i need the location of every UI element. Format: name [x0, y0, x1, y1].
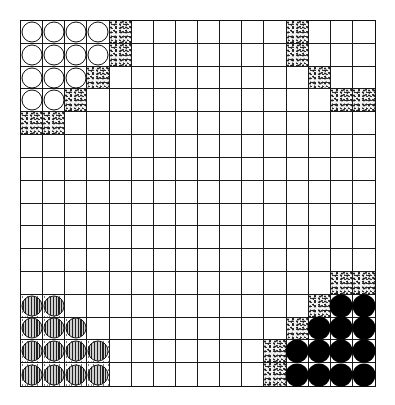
- board-cell[interactable]: [242, 249, 264, 272]
- board-cell[interactable]: [65, 135, 87, 158]
- board-cell[interactable]: [353, 249, 375, 272]
- board-cell[interactable]: [264, 249, 286, 272]
- board-cell[interactable]: [154, 226, 176, 249]
- board-cell[interactable]: [154, 181, 176, 204]
- board-cell[interactable]: [43, 181, 65, 204]
- board-cell[interactable]: [287, 226, 309, 249]
- board-cell[interactable]: [309, 112, 331, 135]
- striped-piece-icon[interactable]: [65, 364, 86, 385]
- white-piece-icon[interactable]: [43, 44, 64, 65]
- board-cell[interactable]: [309, 272, 331, 295]
- board-cell[interactable]: [43, 112, 65, 135]
- board-cell[interactable]: [331, 21, 353, 44]
- board-cell[interactable]: [176, 112, 198, 135]
- board-cell[interactable]: [110, 249, 132, 272]
- board-cell[interactable]: [309, 318, 331, 341]
- board-cell[interactable]: [132, 363, 154, 386]
- board-cell[interactable]: [220, 204, 242, 227]
- board-cell[interactable]: [220, 363, 242, 386]
- board-cell[interactable]: [110, 272, 132, 295]
- board-cell[interactable]: [353, 112, 375, 135]
- board-cell[interactable]: [287, 89, 309, 112]
- board-cell[interactable]: [176, 181, 198, 204]
- board-cell[interactable]: [220, 89, 242, 112]
- board-cell[interactable]: [198, 181, 220, 204]
- board-cell[interactable]: [21, 340, 43, 363]
- board-cell[interactable]: [353, 363, 375, 386]
- board-cell[interactable]: [264, 226, 286, 249]
- white-piece-icon[interactable]: [21, 67, 42, 88]
- white-piece-icon[interactable]: [21, 90, 42, 111]
- white-piece-icon[interactable]: [43, 21, 64, 42]
- board-cell[interactable]: [264, 112, 286, 135]
- board-cell[interactable]: [43, 226, 65, 249]
- white-piece-icon[interactable]: [87, 44, 108, 65]
- board-cell[interactable]: [242, 67, 264, 90]
- board-cell[interactable]: [43, 135, 65, 158]
- board-cell[interactable]: [65, 363, 87, 386]
- board-cell[interactable]: [353, 21, 375, 44]
- board-cell[interactable]: [309, 67, 331, 90]
- board-cell[interactable]: [198, 112, 220, 135]
- board-cell[interactable]: [110, 340, 132, 363]
- striped-piece-icon[interactable]: [21, 364, 42, 385]
- board-cell[interactable]: [331, 295, 353, 318]
- board-cell[interactable]: [87, 318, 109, 341]
- board-cell[interactable]: [331, 226, 353, 249]
- black-piece-icon[interactable]: [308, 363, 331, 386]
- black-piece-icon[interactable]: [352, 294, 375, 317]
- board-cell[interactable]: [65, 204, 87, 227]
- board-cell[interactable]: [65, 340, 87, 363]
- black-piece-icon[interactable]: [352, 317, 375, 340]
- black-piece-icon[interactable]: [308, 317, 331, 340]
- board-cell[interactable]: [220, 340, 242, 363]
- board-cell[interactable]: [21, 21, 43, 44]
- board-cell[interactable]: [132, 21, 154, 44]
- board-cell[interactable]: [264, 67, 286, 90]
- board-cell[interactable]: [154, 135, 176, 158]
- black-piece-icon[interactable]: [330, 294, 353, 317]
- board-cell[interactable]: [154, 21, 176, 44]
- board-cell[interactable]: [198, 272, 220, 295]
- board-cell[interactable]: [65, 112, 87, 135]
- board-cell[interactable]: [176, 318, 198, 341]
- board-cell[interactable]: [176, 363, 198, 386]
- board-cell[interactable]: [65, 158, 87, 181]
- board-cell[interactable]: [176, 89, 198, 112]
- board-cell[interactable]: [198, 226, 220, 249]
- board-cell[interactable]: [176, 340, 198, 363]
- board-cell[interactable]: [353, 272, 375, 295]
- board-cell[interactable]: [132, 340, 154, 363]
- board-cell[interactable]: [65, 67, 87, 90]
- board-cell[interactable]: [154, 340, 176, 363]
- board-cell[interactable]: [132, 67, 154, 90]
- board-cell[interactable]: [132, 112, 154, 135]
- board-cell[interactable]: [132, 158, 154, 181]
- board-cell[interactable]: [264, 318, 286, 341]
- board-cell[interactable]: [176, 204, 198, 227]
- board-cell[interactable]: [198, 204, 220, 227]
- board-cell[interactable]: [21, 363, 43, 386]
- board-cell[interactable]: [198, 67, 220, 90]
- white-piece-icon[interactable]: [65, 21, 86, 42]
- board-cell[interactable]: [132, 44, 154, 67]
- board-cell[interactable]: [110, 363, 132, 386]
- board-cell[interactable]: [242, 112, 264, 135]
- board-cell[interactable]: [87, 89, 109, 112]
- board-cell[interactable]: [353, 340, 375, 363]
- board-cell[interactable]: [87, 272, 109, 295]
- board-cell[interactable]: [132, 295, 154, 318]
- board-cell[interactable]: [331, 204, 353, 227]
- board-cell[interactable]: [309, 226, 331, 249]
- board-cell[interactable]: [87, 21, 109, 44]
- board-cell[interactable]: [110, 21, 132, 44]
- board-cell[interactable]: [331, 181, 353, 204]
- board-cell[interactable]: [154, 89, 176, 112]
- board-cell[interactable]: [353, 89, 375, 112]
- board-cell[interactable]: [242, 135, 264, 158]
- board-cell[interactable]: [331, 67, 353, 90]
- board-cell[interactable]: [264, 363, 286, 386]
- board-cell[interactable]: [331, 89, 353, 112]
- board-cell[interactable]: [242, 295, 264, 318]
- board-cell[interactable]: [264, 272, 286, 295]
